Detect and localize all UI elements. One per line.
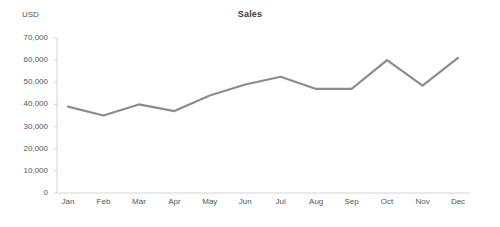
y-axis-tick-label: 50,000 [4, 78, 48, 86]
x-axis-tick-label: Sep [332, 198, 372, 206]
x-axis-tick-label: Feb [83, 198, 123, 206]
y-axis-tick-label: 60,000 [4, 56, 48, 64]
sales-series-line [68, 58, 458, 116]
x-axis-tick-label: Jul [261, 198, 301, 206]
y-axis-tick-label: 20,000 [4, 145, 48, 153]
y-axis-tick-label: 30,000 [4, 123, 48, 131]
y-axis-tick-label: 10,000 [4, 167, 48, 175]
x-axis-tick-label: Oct [367, 198, 407, 206]
x-axis-tick-label: Mar [119, 198, 159, 206]
y-axis-tick-label: 40,000 [4, 100, 48, 108]
x-axis-tick-label: Aug [296, 198, 336, 206]
x-axis-tick-label: Jan [48, 198, 88, 206]
x-axis-tick-label: Apr [154, 198, 194, 206]
sales-line-chart: Sales USD 010,00020,00030,00040,00050,00… [0, 0, 500, 227]
x-axis-tick-label: Dec [438, 198, 478, 206]
plot-area [0, 0, 500, 227]
y-axis-tick-label: 0 [4, 189, 48, 197]
x-axis-tick-label: Jun [225, 198, 265, 206]
x-axis-tick-label: May [190, 198, 230, 206]
y-axis-tick-label: 70,000 [4, 34, 48, 42]
x-axis-tick-label: Nov [403, 198, 443, 206]
